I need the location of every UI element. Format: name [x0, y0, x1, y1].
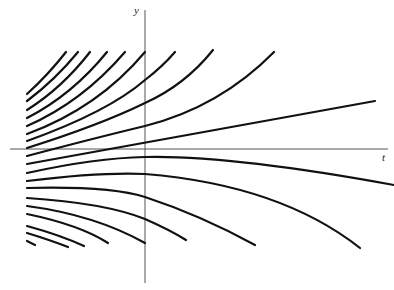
solution-curves-plot — [0, 0, 394, 290]
t-axis-label: t — [382, 151, 385, 163]
solution-curve-c11 — [27, 157, 394, 185]
solution-curve-c12 — [27, 174, 360, 248]
solution-curve-c19 — [27, 241, 35, 245]
solution-curve-c4 — [27, 52, 107, 118]
solution-curve-line — [27, 101, 375, 164]
solution-curve-c2 — [27, 52, 78, 101]
solution-curve-c15 — [27, 206, 145, 243]
y-axis-label: y — [134, 4, 139, 16]
solution-curve-c7 — [27, 52, 175, 141]
